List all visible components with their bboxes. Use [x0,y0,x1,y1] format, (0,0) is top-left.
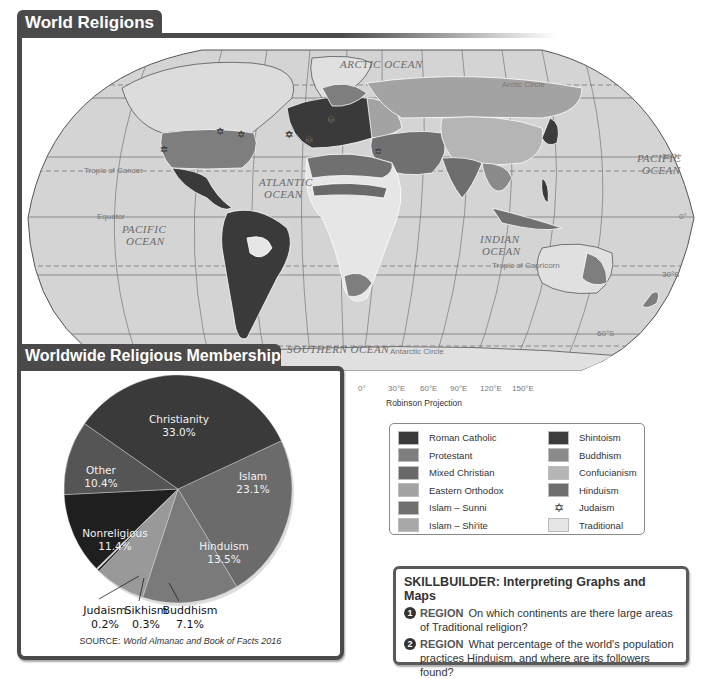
legend-swatch [398,483,419,497]
star-icon: ✡ [285,129,293,140]
question-keyword: REGION [420,638,463,650]
legend-label: Judaism [579,502,614,513]
legend-item: Islam – Sunni [398,499,503,517]
pie-title-tab: Worldwide Religious Membership [17,344,281,368]
source-title: World Almanac and Book of Facts 2016 [123,636,281,646]
legend-swatch [398,448,419,462]
star-icon: ✡ [374,146,382,157]
question-number-icon: 1 [404,607,416,619]
pie-value-islam: 23.1% [236,483,269,495]
legend-item: Traditional [548,517,637,535]
question-keyword: REGION [420,607,463,619]
star-icon: ✡ [237,129,245,140]
religious-membership-panel: Christianity 33.0% Islam 23.1% Hinduism … [17,366,344,660]
legend-item: Shintoism [548,429,637,447]
ocean-label-atlantic-2: OCEAN [264,188,303,200]
legend-swatch [548,448,569,462]
legend-column-left: Roman CatholicProtestantMixed ChristianE… [398,429,503,534]
lat-label-0: 0° [679,212,687,221]
legend-label: Traditional [579,520,623,531]
source-prefix: SOURCE: [80,636,124,646]
ocean-label-arctic: ARCTIC OCEAN [339,58,423,70]
label-arctic-circle: Arctic Circle [502,80,545,89]
legend-item: Hinduism [548,482,637,500]
pie-value-judaism: 0.2% [91,618,119,631]
legend-label: Roman Catholic [429,432,497,443]
ocean-label-pacific-west-2: OCEAN [126,235,165,247]
legend-swatch [548,466,569,480]
legend-swatch [548,518,569,532]
long-label-150e: 150°E [512,384,534,393]
legend-label: Confucianism [579,467,637,478]
label-tropic-cancer: Tropic of Cancer [84,166,143,175]
skillbuilder-question-1: 1 REGIONOn which continents are there la… [404,606,679,634]
skillbuilder-question-2: 2 REGIONWhat percentage of the world's p… [404,637,679,679]
long-label-0: 0° [358,384,366,393]
legend-label: Islam – Shi'ite [429,520,488,531]
pie-label-hinduism: Hinduism [199,540,248,552]
legend-column-right: ShintoismBuddhismConfucianismHinduism✡Ju… [548,429,637,534]
legend-item: Buddhism [548,447,637,465]
ocean-label-indian: INDIAN [479,233,520,245]
legend-label: Hinduism [579,485,619,496]
ocean-label-southern: SOUTHERN OCEAN [287,343,389,355]
pie-value-christianity: 33.0% [162,426,195,438]
pie-value-nonreligious: 11.4% [98,540,131,552]
star-of-david-icon: ✡ [548,501,569,515]
legend-item: Islam – Shi'ite [398,517,503,535]
long-label-30e: 30°E [388,384,405,393]
legend-label: Protestant [429,450,472,461]
ocean-label-atlantic: ATLANTIC [258,176,313,188]
pie-label-judaism: Judaism [82,604,126,617]
legend-item: Roman Catholic [398,429,503,447]
skillbuilder-box: SKILLBUILDER: Interpreting Graphs and Ma… [393,566,689,665]
label-antarctic-circle: Antarctic Circle [390,347,444,356]
pie-value-other: 10.4% [84,477,117,489]
skillbuilder-title: SKILLBUILDER: Interpreting Graphs and Ma… [404,575,679,603]
legend-label: Shintoism [579,432,621,443]
ocean-label-pacific-west: PACIFIC [121,223,166,235]
legend-swatch [398,518,419,532]
question-number-icon: 2 [404,638,416,650]
pie-source: SOURCE: World Almanac and Book of Facts … [21,636,340,646]
ocean-label-indian-2: OCEAN [482,245,521,257]
legend-swatch [548,483,569,497]
map-legend: Roman CatholicProtestantMixed ChristianE… [389,423,645,535]
legend-swatch [398,501,419,515]
long-label-120e: 120°E [480,384,502,393]
russia [367,77,582,118]
legend-item: Mixed Christian [398,464,503,482]
pie-value-hinduism: 13.5% [207,553,240,565]
long-label-90e: 90°E [450,384,467,393]
legend-swatch [398,466,419,480]
pie-label-sikhism: Sikhism [125,604,168,617]
pie-label-other: Other [86,464,116,476]
star-icon: ✡ [160,144,168,155]
legend-label: Eastern Orthodox [429,485,503,496]
legend-label: Mixed Christian [429,467,494,478]
star-icon: ✡ [305,134,313,145]
pie-value-buddhism: 7.1% [176,618,204,631]
pie-chart: Christianity 33.0% Islam 23.1% Hinduism … [21,371,340,656]
pie-title: Worldwide Religious Membership [25,344,281,368]
legend-item: Confucianism [548,464,637,482]
label-equator: Equator [97,212,125,221]
lat-label-30n: 30°N [662,152,680,161]
label-tropic-capricorn: Tropic of Capricorn [492,261,560,270]
legend-swatch [398,431,419,445]
long-label-60e: 60°E [420,384,437,393]
projection-label: Robinson Projection [386,398,462,408]
legend-label: Buddhism [579,450,621,461]
legend-item: Protestant [398,447,503,465]
pie-label-nonreligious: Nonreligious [82,527,147,539]
lat-label-60s: 60°S [597,329,614,338]
legend-item: ✡Judaism [548,499,637,517]
lat-label-30s: 30°S [662,270,679,279]
pie-label-islam: Islam [239,470,267,482]
star-icon: ✡ [327,114,335,125]
legend-swatch [548,431,569,445]
ocean-label-pacific-east-2: OCEAN [642,164,681,176]
star-icon: ✡ [216,126,224,137]
pie-label-buddhism: Buddhism [163,604,218,617]
pie-value-sikhism: 0.3% [132,618,160,631]
